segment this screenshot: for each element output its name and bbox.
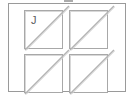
diagonal-line-icon bbox=[24, 49, 70, 95]
tile-bevel-shade bbox=[25, 55, 62, 92]
tile-bottom-left[interactable] bbox=[24, 54, 63, 93]
diagram-canvas: J bbox=[0, 0, 139, 99]
tile-bottom-right[interactable] bbox=[69, 54, 108, 93]
tile-top-left[interactable]: J bbox=[24, 10, 63, 49]
outer-frame: J bbox=[8, 3, 126, 92]
tile-top-right[interactable] bbox=[69, 10, 108, 49]
diagonal-line-icon bbox=[69, 5, 115, 51]
diagonal-line-icon bbox=[69, 49, 115, 95]
tile-bevel-shade bbox=[70, 11, 107, 48]
top-edge-smudge-mark bbox=[64, 0, 73, 2]
tile-label-j: J bbox=[31, 14, 37, 26]
diagonal-line-icon bbox=[24, 5, 70, 51]
tile-bevel-shade bbox=[70, 55, 107, 92]
